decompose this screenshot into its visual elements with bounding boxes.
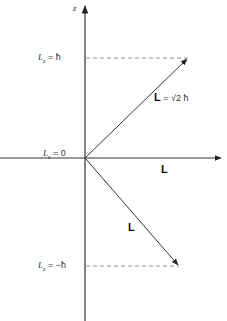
level-value: = ħ [48, 52, 61, 62]
level-subscript: z [43, 58, 45, 64]
z-axis-label: z [73, 4, 77, 13]
vector-horizontal-label: L [161, 164, 168, 175]
vector-up-label: L = √2 ħ [154, 92, 188, 103]
level-value: = 0 [53, 148, 66, 158]
vector-down-label: L [128, 222, 135, 233]
level-label-plus-hbar: Lz = ħ [38, 53, 61, 64]
vector-symbol: L [154, 91, 161, 103]
diagram-canvas [0, 0, 227, 321]
level-label-zero: Lz = 0 [43, 149, 66, 160]
level-value: = −ħ [48, 260, 66, 270]
vector-magnitude: = √2 ħ [163, 93, 188, 103]
level-subscript: z [43, 266, 45, 272]
level-label-minus-hbar: Lz = −ħ [38, 261, 66, 272]
vector-up [85, 59, 187, 158]
level-subscript: z [48, 154, 50, 160]
